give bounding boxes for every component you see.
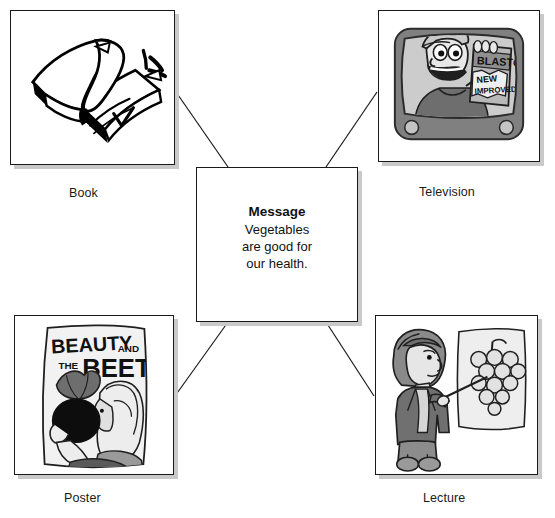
- connector-television-to-center: [326, 92, 377, 167]
- diagram-canvas: Book: [0, 0, 555, 518]
- media-box-book[interactable]: [10, 10, 175, 165]
- media-label-lecture: Lecture: [423, 491, 465, 505]
- media-box-lecture[interactable]: [375, 315, 538, 475]
- center-message-line-1: Vegetables: [245, 221, 309, 238]
- media-box-poster[interactable]: BEAUTY AND THE BEET: [14, 315, 174, 475]
- connector-book-to-center: [176, 92, 228, 167]
- center-message-box[interactable]: Message Vegetables are good for our heal…: [196, 167, 358, 322]
- book-illustration: [11, 11, 174, 164]
- media-box-television[interactable]: BLASTO NEW IMPROVED: [378, 10, 540, 162]
- media-label-television: Television: [419, 185, 475, 199]
- connector-poster-to-center: [175, 322, 228, 396]
- media-label-book: Book: [69, 186, 98, 200]
- lecture-illustration: [376, 316, 537, 474]
- svg-text:AND: AND: [118, 343, 139, 354]
- connector-lecture-to-center: [326, 322, 374, 396]
- center-message-title: Message: [248, 203, 305, 220]
- svg-text:NEW: NEW: [476, 73, 498, 85]
- poster-illustration: BEAUTY AND THE BEET: [15, 316, 173, 474]
- television-illustration: BLASTO NEW IMPROVED: [379, 11, 539, 161]
- center-message-line-2: are good for: [242, 238, 312, 255]
- center-message-line-3: our health.: [246, 255, 307, 272]
- media-label-poster: Poster: [64, 491, 101, 505]
- svg-text:THE: THE: [58, 360, 78, 371]
